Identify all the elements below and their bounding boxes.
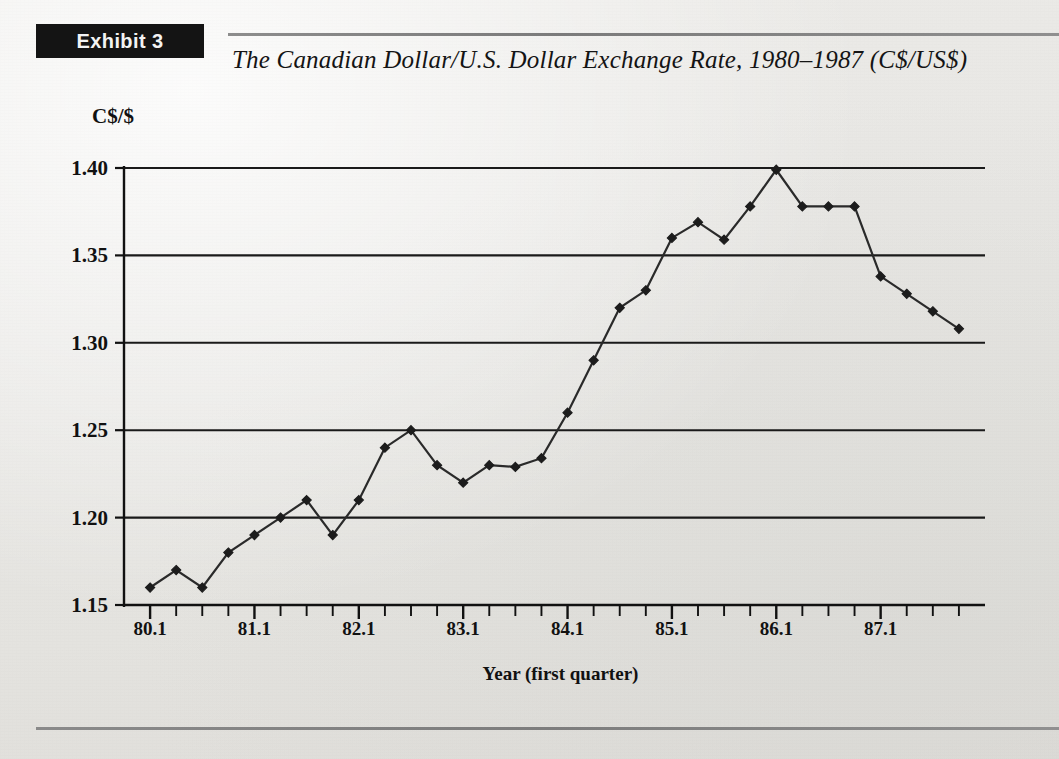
axes — [124, 166, 985, 607]
x-tick-label: 86.1 — [760, 618, 793, 640]
line-chart — [0, 0, 1059, 700]
data-point-marker — [589, 356, 598, 365]
series-c-usd-exchange-rate — [145, 165, 963, 592]
data-point-marker — [511, 462, 520, 471]
x-tick-label: 81.1 — [238, 618, 271, 640]
data-point-marker — [824, 202, 833, 211]
data-point-marker — [850, 202, 859, 211]
y-tick-label: 1.40 — [36, 156, 108, 181]
y-tick-label: 1.20 — [36, 505, 108, 530]
x-tick-label: 84.1 — [551, 618, 584, 640]
x-tick-label: 87.1 — [864, 618, 897, 640]
exhibit-page: Exhibit 3 The Canadian Dollar/U.S. Dolla… — [0, 0, 1059, 759]
y-tick-label: 1.30 — [36, 330, 108, 355]
data-point-marker — [537, 454, 546, 463]
gridlines — [124, 168, 985, 605]
x-axis-ticks — [150, 605, 959, 619]
x-tick-label: 85.1 — [655, 618, 688, 640]
y-axis-ticks — [115, 168, 124, 605]
y-tick-label: 1.15 — [36, 593, 108, 618]
x-tick-label: 80.1 — [133, 618, 166, 640]
y-tick-label: 1.25 — [36, 418, 108, 443]
x-tick-label: 82.1 — [342, 618, 375, 640]
chart-plot-area: C$/$ Year (first quarter) 1.151.201.251.… — [0, 0, 1059, 700]
y-tick-label: 1.35 — [36, 243, 108, 268]
series-line — [150, 170, 959, 588]
data-point-marker — [563, 408, 572, 417]
x-tick-label: 83.1 — [447, 618, 480, 640]
footer-divider — [36, 727, 1059, 730]
